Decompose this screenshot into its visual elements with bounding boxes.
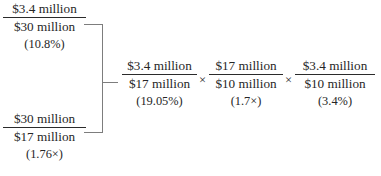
fraction-left-top: $3.4 million $30 million (10.8%) (3, 2, 86, 51)
fraction-denominator: $17 million (3, 128, 86, 143)
fraction-right-3: $3.4 million $10 million (3.4%) (295, 59, 375, 108)
fraction-denominator: $10 million (295, 75, 375, 90)
brace-vertical-stroke (102, 24, 103, 133)
fraction-denominator: $10 million (209, 75, 283, 90)
brace-top-arm (84, 24, 103, 25)
fraction-value-note: (19.05%) (122, 90, 197, 107)
fraction-value-note: (10.8%) (3, 33, 86, 50)
brace-bottom-arm (84, 132, 103, 133)
fraction-numerator: $3.4 million (295, 59, 375, 74)
fraction-left-bottom: $30 million $17 million (1.76×) (3, 112, 86, 161)
fraction-numerator: $30 million (3, 112, 86, 127)
brace-center-stem (103, 82, 118, 83)
equation-diagram: $3.4 million $30 million (10.8%) $30 mil… (0, 0, 381, 176)
fraction-denominator: $17 million (122, 75, 197, 90)
fraction-right-2: $17 million $10 million (1.7×) (209, 59, 283, 108)
fraction-numerator: $3.4 million (3, 2, 86, 17)
fraction-value-note: (3.4%) (295, 90, 375, 107)
fraction-value-note: (1.76×) (3, 143, 86, 160)
fraction-numerator: $17 million (209, 59, 283, 74)
fraction-denominator: $30 million (3, 18, 86, 33)
multiplication-sign-1: × (199, 74, 206, 87)
fraction-value-note: (1.7×) (209, 90, 283, 107)
fraction-right-1: $3.4 million $17 million (19.05%) (122, 59, 197, 108)
right-brace-icon (83, 24, 119, 136)
fraction-numerator: $3.4 million (122, 59, 197, 74)
multiplication-sign-2: × (285, 74, 292, 87)
